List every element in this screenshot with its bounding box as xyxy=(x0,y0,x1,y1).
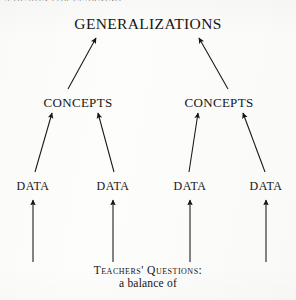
node-generalizations: GENERALIZATIONS xyxy=(74,15,221,33)
arrow-layer xyxy=(0,0,296,300)
arrow-data1-to-concepts-left xyxy=(35,113,52,172)
arrow-concepts-left-to-generalizations xyxy=(68,38,96,89)
arrow-data2-to-concepts-left xyxy=(98,113,114,172)
caption-a-balance-of: a balance of xyxy=(0,277,296,289)
node-data-3: DATA xyxy=(174,179,207,194)
node-data-1: DATA xyxy=(17,179,50,194)
caption-teachers-questions: Teachers' Questions: xyxy=(0,264,296,276)
node-data-4: DATA xyxy=(250,179,283,194)
node-data-2: DATA xyxy=(97,179,130,194)
arrow-concepts-right-to-generalizations xyxy=(199,38,228,89)
node-concepts-left: CONCEPTS xyxy=(44,95,113,111)
arrow-data4-to-concepts-right xyxy=(243,113,265,172)
arrow-data3-to-concepts-right xyxy=(189,113,198,172)
caption: Teachers' Questions: a balance of xyxy=(0,264,296,289)
diagram-page: A DESIGN FOR LEARNING GENERALIZATIONS CO… xyxy=(0,0,296,300)
node-concepts-right: CONCEPTS xyxy=(185,95,254,111)
